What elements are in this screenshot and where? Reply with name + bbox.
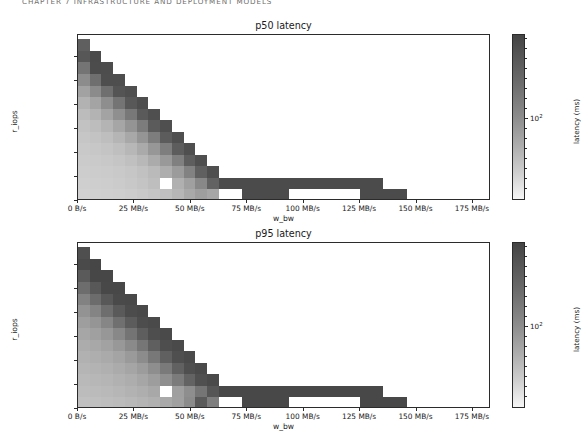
heatmap-cell — [137, 397, 149, 408]
heatmap-cell — [148, 166, 160, 178]
x-tick — [416, 408, 417, 411]
heatmap-cell — [101, 386, 113, 398]
x-axis-label: w_bw — [77, 422, 490, 431]
x-tick — [303, 408, 304, 411]
colorbar-tick — [525, 306, 527, 307]
colorbar-tick — [525, 128, 527, 129]
colorbar-tick — [525, 78, 527, 79]
colorbar-tick — [525, 386, 527, 387]
x-tick-label: 75 MB/s — [231, 412, 261, 421]
heatmap-cell — [207, 166, 219, 178]
heatmap-cell — [160, 328, 172, 340]
heatmap-cell — [78, 132, 90, 144]
y-tick — [74, 408, 77, 409]
x-tick — [303, 200, 304, 203]
heatmap-cell — [101, 178, 113, 190]
heatmap-cell — [90, 386, 102, 398]
heatmap-cell — [148, 143, 160, 155]
heatmap-cell — [137, 97, 149, 109]
x-tick-label: 75 MB/s — [231, 204, 261, 213]
heatmap-cell — [125, 317, 137, 329]
page-header: CHAPTER 7 INFRASTRUCTURE AND DEPLOYMENT … — [22, 0, 482, 7]
heatmap-cell — [242, 397, 289, 408]
heatmap-cell — [113, 328, 125, 340]
heatmap-cell — [137, 109, 149, 121]
heatmap-cell — [90, 340, 102, 352]
heatmap-cell — [78, 39, 90, 51]
heatmap-cell — [90, 374, 102, 386]
heatmap-cell — [90, 74, 102, 86]
heatmap-cell — [90, 86, 102, 98]
y-tick — [74, 312, 77, 313]
y-tick — [74, 264, 77, 265]
heatmap-cell — [137, 351, 149, 363]
x-tick — [133, 408, 134, 411]
heatmap-cell — [125, 143, 137, 155]
heatmap-cell — [78, 178, 90, 190]
heatmap-cell — [207, 374, 219, 386]
x-tick-label: 0 B/s — [68, 204, 86, 213]
heatmap-cell — [113, 86, 125, 98]
heatmap-cell — [113, 178, 125, 190]
colorbar-tick — [525, 148, 527, 149]
heatmap-cell — [125, 386, 137, 398]
heatmap-cell — [137, 132, 149, 144]
chart-panel-p95: p95 latency w_bw r_iops latency (ms) 0 B… — [0, 222, 574, 436]
colorbar-tick — [525, 108, 527, 109]
heatmap-cell — [78, 270, 90, 282]
heatmap-cell — [289, 189, 359, 200]
colorbar-major-tick — [525, 118, 528, 119]
heatmap-cell — [90, 97, 102, 109]
heatmap-cell — [113, 317, 125, 329]
heatmap-cell — [90, 328, 102, 340]
heatmap-cell — [148, 374, 160, 386]
heatmap-cell — [101, 270, 113, 282]
y-tick — [74, 384, 77, 385]
heatmap-cell — [78, 97, 90, 109]
heatmap-cell — [90, 317, 102, 329]
heatmap-cell — [125, 374, 137, 386]
colorbar-tick — [525, 396, 527, 397]
heatmap-cell — [125, 166, 137, 178]
heatmap-cell — [101, 351, 113, 363]
heatmap-cell — [195, 374, 207, 386]
chart-title: p95 latency — [77, 228, 490, 239]
heatmap-cell — [148, 397, 160, 408]
heatmap-cell — [160, 374, 172, 386]
heatmap-cell — [195, 155, 207, 167]
heatmap-cell — [160, 189, 172, 200]
heatmap-cell — [137, 166, 149, 178]
x-tick — [359, 200, 360, 203]
heatmap-cell — [160, 155, 172, 167]
heatmap-cell — [148, 189, 160, 200]
heatmap-cell — [90, 166, 102, 178]
heatmap-cell — [172, 386, 184, 398]
heatmap-cell — [101, 120, 113, 132]
colorbar-tick — [525, 58, 527, 59]
heatmap-cell — [78, 143, 90, 155]
heatmap-cell — [90, 305, 102, 317]
heatmap-cell — [113, 155, 125, 167]
heatmap-cell — [184, 351, 196, 363]
heatmap-cell — [148, 120, 160, 132]
heatmap-cell — [101, 166, 113, 178]
heatmap-cell — [383, 178, 406, 190]
heatmap-cell — [172, 340, 184, 352]
heatmap-cell — [184, 374, 196, 386]
heatmap-cell — [219, 189, 242, 200]
heatmap-cell — [78, 51, 90, 63]
colorbar-tick — [525, 246, 527, 247]
heatmap-cell — [101, 143, 113, 155]
heatmap-cell — [125, 97, 137, 109]
colorbar-tick — [525, 346, 527, 347]
y-tick — [74, 152, 77, 153]
heatmap-cell — [113, 374, 125, 386]
heatmap-cell — [90, 51, 102, 63]
heatmap-cell — [113, 363, 125, 375]
colorbar-tick — [525, 88, 527, 89]
heatmap-cell — [90, 155, 102, 167]
heatmap-plot-area — [77, 34, 490, 200]
colorbar-tick — [525, 296, 527, 297]
heatmap-cell — [78, 109, 90, 121]
heatmap-cell — [137, 317, 149, 329]
